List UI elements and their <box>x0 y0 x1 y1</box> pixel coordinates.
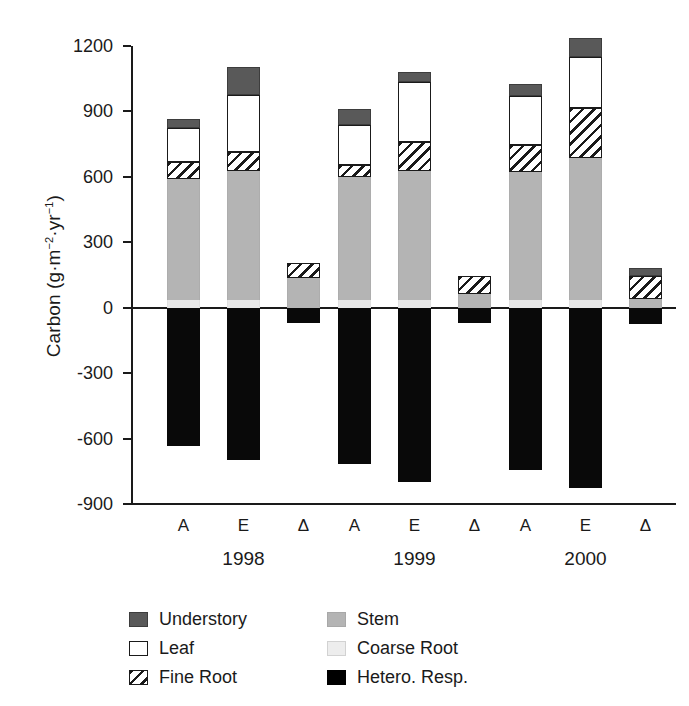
bar-segment-hetero <box>629 308 662 324</box>
stacked-bar <box>287 46 320 504</box>
bar-segment-fineroot <box>398 142 431 171</box>
x-axis-sub-label: A <box>167 516 200 536</box>
bar-segment-understory <box>227 67 260 95</box>
plot-area: 12009006003000-300-600-900 <box>131 46 676 504</box>
legend-item: Coarse Root <box>327 634 468 663</box>
legend-column-1: UnderstoryLeafFine Root <box>129 605 247 692</box>
bar-segment-stem <box>338 177 371 300</box>
carbon-flux-stacked-bar-chart: Carbon (g·m−2·yr−1) 12009006003000-300-6… <box>0 0 689 706</box>
bar-segment-coarseroot <box>338 300 371 308</box>
legend-swatch-understory-icon <box>129 612 148 627</box>
bar-segment-fineroot <box>509 145 542 172</box>
bar-segment-hetero <box>569 308 602 488</box>
bar-segment-stem <box>287 278 320 307</box>
bar-segment-leaf <box>227 95 260 152</box>
y-axis-tick <box>123 307 131 309</box>
bar-segment-stem <box>167 179 200 300</box>
y-axis-tick <box>123 372 131 374</box>
legend-item: Hetero. Resp. <box>327 663 468 692</box>
bar-segment-coarseroot <box>509 300 542 308</box>
legend-label: Coarse Root <box>357 638 458 659</box>
stacked-bar <box>509 46 542 504</box>
y-axis-tick-label: 0 <box>27 299 113 317</box>
legend-swatch-leaf-icon <box>129 641 148 656</box>
y-axis-tick-label: 600 <box>27 168 113 186</box>
y-axis-tick-label: 1200 <box>27 37 113 55</box>
legend-label: Hetero. Resp. <box>357 667 468 688</box>
x-axis-group-label: 1999 <box>335 548 495 570</box>
y-axis-tick <box>123 503 131 505</box>
bar-segment-hetero <box>398 308 431 482</box>
bar-segment-coarseroot <box>398 300 431 308</box>
bar-segment-coarseroot <box>569 300 602 308</box>
legend-swatch-hetero-icon <box>327 670 346 685</box>
stacked-bar <box>458 46 491 504</box>
legend-item: Leaf <box>129 634 247 663</box>
y-axis-title-suffix: ) <box>43 195 64 201</box>
legend-item: Understory <box>129 605 247 634</box>
stacked-bar <box>629 46 662 504</box>
bar-segment-hetero <box>509 308 542 470</box>
bar-segment-leaf <box>167 128 200 162</box>
y-axis-tick-label: -900 <box>27 495 113 513</box>
bar-segment-fineroot <box>338 165 371 177</box>
stacked-bar <box>227 46 260 504</box>
bar-segment-fineroot <box>287 263 320 278</box>
legend-label: Stem <box>357 609 399 630</box>
x-axis-group-label: 1998 <box>164 548 324 570</box>
legend-swatch-stem-icon <box>327 612 346 627</box>
y-axis-title-exponent-2: −1 <box>43 202 55 215</box>
bar-segment-understory <box>398 72 431 82</box>
stacked-bar <box>167 46 200 504</box>
bar-segment-fineroot <box>629 276 662 299</box>
bar-segment-fineroot <box>458 276 491 293</box>
legend-column-2: StemCoarse RootHetero. Resp. <box>327 605 468 692</box>
stacked-bar <box>398 46 431 504</box>
legend-label: Understory <box>159 609 247 630</box>
legend-item: Stem <box>327 605 468 634</box>
bar-segment-leaf <box>569 57 602 108</box>
y-axis-tick <box>123 45 131 47</box>
bar-segment-stem <box>458 294 491 308</box>
stacked-bar <box>338 46 371 504</box>
bar-segment-leaf <box>509 96 542 145</box>
bar-segment-coarseroot <box>227 300 260 308</box>
bar-segment-leaf <box>398 82 431 142</box>
legend-item: Fine Root <box>129 663 247 692</box>
stacked-bar <box>569 46 602 504</box>
x-axis-sub-label: A <box>338 516 371 536</box>
x-axis-sub-label: Δ <box>629 516 662 536</box>
bar-segment-coarseroot <box>167 300 200 308</box>
bar-segment-fineroot <box>227 152 260 172</box>
x-axis-sub-label: E <box>227 516 260 536</box>
y-axis-tick <box>123 176 131 178</box>
bar-segment-understory <box>509 84 542 96</box>
bar-segment-leaf <box>338 125 371 165</box>
x-axis-group-label: 2000 <box>506 548 666 570</box>
y-axis-tick-label: -600 <box>27 430 113 448</box>
y-axis-line <box>131 46 133 504</box>
x-axis-sub-label: E <box>569 516 602 536</box>
bar-segment-stem <box>569 158 602 300</box>
bar-segment-understory <box>167 119 200 128</box>
bar-segment-fineroot <box>167 162 200 179</box>
bar-segment-stem <box>629 299 662 308</box>
x-axis-sub-label: A <box>509 516 542 536</box>
y-axis-tick <box>123 241 131 243</box>
legend-swatch-fineroot-icon <box>129 670 148 685</box>
y-axis-tick-label: 300 <box>27 233 113 251</box>
bar-segment-hetero <box>338 308 371 464</box>
bar-segment-understory <box>629 268 662 276</box>
x-axis-sub-label: Δ <box>287 516 320 536</box>
y-axis-tick-label: 900 <box>27 102 113 120</box>
bar-segment-stem <box>509 172 542 300</box>
bar-segment-understory <box>338 109 371 124</box>
bar-segment-fineroot <box>569 108 602 158</box>
legend-label: Fine Root <box>159 667 237 688</box>
bar-segment-hetero <box>287 308 320 323</box>
x-axis-sub-label: E <box>398 516 431 536</box>
legend-label: Leaf <box>159 638 194 659</box>
bar-segment-stem <box>398 171 431 300</box>
bar-segment-hetero <box>458 308 491 323</box>
y-axis-tick <box>123 110 131 112</box>
